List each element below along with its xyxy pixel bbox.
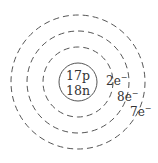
shell-3-charge: − bbox=[145, 104, 152, 113]
nucleus-protons: 17p bbox=[58, 70, 98, 83]
shell-2-charge: − bbox=[132, 89, 139, 98]
shell-3-label: 7e− bbox=[130, 105, 151, 118]
nucleus-neutrons: 18n bbox=[58, 85, 98, 98]
shell-3-count: 7e bbox=[130, 105, 145, 119]
shell-1-label: 2e− bbox=[106, 74, 127, 87]
shell-1-charge: − bbox=[121, 73, 128, 82]
shell-2-label: 8e− bbox=[117, 90, 138, 103]
shell-2-count: 8e bbox=[117, 90, 132, 104]
shell-1-count: 2e bbox=[106, 74, 121, 88]
